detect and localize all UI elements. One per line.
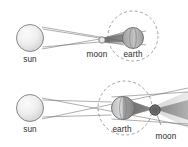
sun-body xyxy=(17,95,44,122)
eclipse-diagram: sun moon earth xyxy=(0,0,188,147)
moon-body xyxy=(99,37,105,43)
label-moon: moon xyxy=(87,50,108,59)
label-sun: sun xyxy=(23,125,37,134)
sun-body xyxy=(17,25,44,52)
label-sun: sun xyxy=(23,55,37,64)
earth-body xyxy=(123,28,144,49)
earth-body xyxy=(112,97,135,120)
moon-inner-shade xyxy=(152,107,158,113)
label-moon: moon xyxy=(156,132,177,141)
label-earth: earth xyxy=(123,50,143,59)
label-earth: earth xyxy=(112,125,132,134)
lunar-eclipse-panel: sun earth moon xyxy=(0,74,188,147)
solar-eclipse-panel: sun moon earth xyxy=(0,0,188,74)
